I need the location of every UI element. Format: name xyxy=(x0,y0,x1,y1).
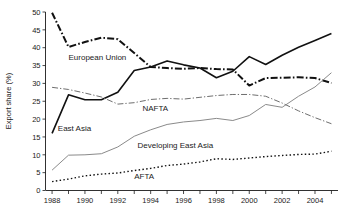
export-share-line-chart: 05101520253035404550 Export share (%) 19… xyxy=(0,0,345,215)
y-axis-group: 05101520253035404550 Export share (%) xyxy=(4,8,46,196)
y-tick-label: 50 xyxy=(32,8,40,17)
chart-container: 05101520253035404550 Export share (%) 19… xyxy=(0,0,345,215)
series-label-developing-east-asia: Developing East Asia xyxy=(138,141,214,150)
x-tick-label: 1994 xyxy=(142,196,159,205)
x-tick-label: 1996 xyxy=(175,196,192,205)
data-series-group xyxy=(52,13,331,182)
y-tick-label: 0 xyxy=(36,186,40,195)
x-tick-label: 2002 xyxy=(274,196,291,205)
y-tick-label: 40 xyxy=(32,43,40,52)
y-tick-label: 20 xyxy=(32,115,40,124)
x-tick-label: 1998 xyxy=(208,196,225,205)
x-tick-label: 2004 xyxy=(307,196,324,205)
series-line-afta xyxy=(52,151,331,181)
y-tick-label: 25 xyxy=(32,97,40,106)
x-tick-label: 1990 xyxy=(77,196,94,205)
y-tick-label: 5 xyxy=(36,168,40,177)
x-tick-label: 1988 xyxy=(44,196,61,205)
x-axis-group: 198819901992199419961998200020022004 xyxy=(44,191,338,206)
y-tick-label: 15 xyxy=(32,133,40,142)
y-tick-label: 45 xyxy=(32,26,40,35)
y-axis-title: Export share (%) xyxy=(4,72,13,129)
series-line-east-asia xyxy=(52,33,331,133)
y-tick-labels: 05101520253035404550 xyxy=(32,8,40,196)
series-line-european-union xyxy=(52,13,331,86)
series-annotation-labels: European UnionEast AsiaNAFTADeveloping E… xyxy=(58,53,214,181)
series-line-nafta xyxy=(52,87,331,123)
y-tick-label: 10 xyxy=(32,151,40,160)
y-tick-label: 30 xyxy=(32,79,40,88)
x-tick-labels: 198819901992199419961998200020022004 xyxy=(44,196,324,205)
y-tick-label: 35 xyxy=(32,61,40,70)
series-label-east-asia: East Asia xyxy=(58,124,92,133)
x-tick-marks xyxy=(52,191,331,195)
series-line-developing-east-asia xyxy=(52,73,331,170)
x-tick-label: 2000 xyxy=(241,196,258,205)
x-tick-label: 1992 xyxy=(109,196,126,205)
series-label-nafta: NAFTA xyxy=(142,104,168,113)
series-label-afta: AFTA xyxy=(134,172,155,181)
series-label-european-union: European Union xyxy=(69,53,127,62)
